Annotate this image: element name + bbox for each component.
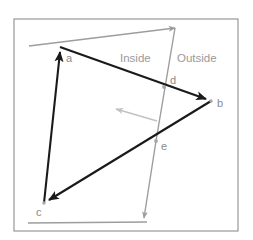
polygon-edge-c-to-a: [44, 52, 60, 203]
clip-baseline: [28, 222, 147, 223]
vertex-point-c: [42, 201, 45, 204]
vertex-label-c: c: [36, 206, 42, 218]
inward-normal-arrow: [116, 109, 157, 121]
polygon-edge-b-to-c: [49, 101, 211, 200]
vertex-label-e: e: [161, 140, 167, 152]
clip-boundary-line: [29, 28, 175, 46]
diagram-frame-border: [14, 19, 238, 231]
inside-outside-diagram-svg: Inside Outside a b c d e: [0, 0, 253, 240]
region-label-inside: Inside: [120, 52, 151, 64]
vertex-label-b: b: [217, 97, 223, 109]
diagram-root: Inside Outside a b c d e: [0, 0, 253, 240]
vertex-label-a: a: [66, 52, 73, 64]
intersection-point-d: [162, 85, 166, 89]
vertex-point-b: [209, 99, 212, 102]
vertex-label-d: d: [170, 74, 176, 86]
intersection-point-e: [154, 139, 158, 143]
region-label-outside: Outside: [177, 52, 217, 64]
